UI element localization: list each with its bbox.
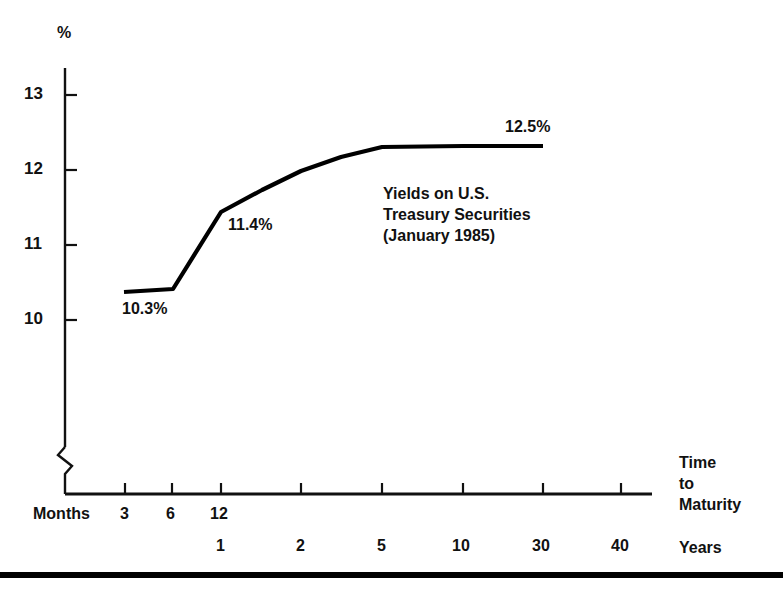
x-tick-label-1-year: 1 [216, 537, 225, 555]
x-axis-title-line-2: to [679, 473, 694, 494]
x-tick-label-3-months: 3 [120, 505, 129, 523]
x-row-label-months: Months [33, 505, 90, 523]
annotation-11-4-percent: 11.4% [228, 216, 272, 234]
x-tick-label-40-years: 40 [611, 537, 629, 555]
y-axis-unit-label: % [57, 24, 71, 42]
annotation-10-3-percent: 10.3% [122, 300, 167, 318]
x-tick-label-10-years: 10 [452, 537, 470, 555]
x-tick-label-12-months: 12 [210, 505, 228, 523]
caption-line-3: (January 1985) [383, 225, 495, 246]
x-row-label-years: Years [679, 537, 722, 558]
annotation-12-5-percent: 12.5% [505, 118, 550, 136]
y-tick-label-11: 11 [24, 234, 42, 254]
chart-plot-area [0, 0, 783, 595]
x-tick-label-30-years: 30 [532, 537, 550, 555]
x-tick-label-2-years: 2 [296, 537, 305, 555]
y-tick-label-10: 10 [24, 309, 43, 329]
axis-break-icon [58, 447, 72, 494]
yield-curve-figure: % 13 12 11 10 10.3% 11.4% 12.5% Yields o… [0, 0, 783, 595]
bottom-divider-rule [0, 572, 783, 578]
caption-line-2: Treasury Securities [383, 204, 531, 225]
x-tick-label-6-months: 6 [166, 505, 175, 523]
x-axis-title-line-3: Maturity [679, 494, 741, 515]
x-tick-label-5-years: 5 [377, 537, 386, 555]
y-tick-label-12: 12 [24, 159, 43, 179]
caption-line-1: Yields on U.S. [383, 183, 489, 204]
y-tick-label-13: 13 [24, 84, 43, 104]
x-axis-title-line-1: Time [679, 452, 716, 473]
